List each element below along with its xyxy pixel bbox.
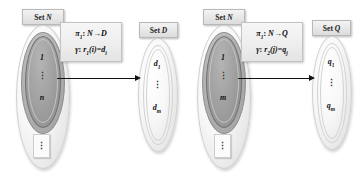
figure-canvas: Set N 1 ⋮ n ⋮ Set D d1 ⋮ dm [0, 0, 362, 178]
formula-box-left: π1: N→D γ: r1(i)=di [60, 22, 122, 62]
formula-result-sub-left: i [105, 49, 107, 55]
set-n-vdots-right: ⋮ [206, 72, 240, 81]
set-q-element-q1: q1 [317, 57, 345, 68]
set-q-label: Set Q [312, 20, 351, 36]
formula-result-sub-right: j [286, 49, 288, 55]
set-d-element-d1-sub: 1 [158, 64, 161, 70]
set-d-prefix: Set [150, 26, 161, 35]
set-q-element-q1-sub: 1 [332, 62, 335, 68]
set-n-element-1-right: 1 [206, 53, 240, 62]
set-d-label: Set D [139, 22, 178, 38]
set-n-label-left: Set N [22, 9, 64, 25]
set-n-vdots-left: ⋮ [25, 72, 59, 81]
formula-codomain-left: D [101, 29, 107, 38]
set-d-element-d1: d1 [143, 59, 171, 70]
panel-left: Set N 1 ⋮ n ⋮ Set D d1 ⋮ dm [0, 0, 181, 178]
mapping-arrow-line-right [238, 78, 311, 79]
formula-codomain-right: Q [282, 29, 288, 38]
formula-line-2-right: γ: r2(j)=qj [256, 45, 288, 56]
set-n-symbol-right: N [226, 13, 233, 22]
set-n-outside-marker-left: ⋮ [33, 134, 50, 158]
formula-arg-right: (j) [270, 45, 278, 54]
set-n-thin-ellipse-right [209, 39, 239, 123]
mapping-arrow-line-left [57, 78, 137, 79]
set-d-vdots: ⋮ [143, 81, 171, 90]
formula-line-1-left: π1: N→D [75, 29, 106, 40]
set-n-element-n-left: n [25, 93, 59, 102]
set-n-element-1-left: 1 [25, 53, 59, 62]
mapping-arrow-head-right [309, 75, 315, 81]
formula-arrow-left: → [93, 29, 101, 38]
set-n-outside-marker-right: ⋮ [214, 134, 231, 158]
set-d-element-dm-sub: m [157, 108, 161, 114]
set-q-prefix: Set [323, 24, 334, 33]
set-n-prefix-left: Set [34, 13, 45, 22]
panel-right: Set N 1 ⋮ m ⋮ Set Q q1 ⋮ qm [181, 0, 362, 178]
set-n-symbol-left: N [45, 13, 52, 22]
mapping-arrow-head-left [135, 75, 141, 81]
set-q-element-qm-sub: m [331, 106, 335, 112]
formula-arg-left: (i) [89, 45, 97, 54]
formula-line-2-left: γ: r1(i)=di [75, 45, 107, 56]
set-d-symbol: D [160, 26, 167, 35]
set-n-element-m-right: m [206, 93, 240, 102]
formula-arrow-right: → [274, 29, 282, 38]
set-n-label-right: Set N [203, 9, 245, 25]
set-q-vdots: ⋮ [317, 79, 345, 88]
set-n-thin-ellipse-left [28, 39, 58, 123]
formula-box-right: π1: N→Q γ: r2(j)=qj [241, 22, 303, 62]
set-q-element-qm: qm [317, 101, 345, 112]
set-q-symbol: Q [333, 24, 340, 33]
set-n-prefix-right: Set [215, 13, 226, 22]
set-d-element-dm: dm [143, 103, 171, 114]
formula-line-1-right: π1: N→Q [256, 29, 287, 40]
